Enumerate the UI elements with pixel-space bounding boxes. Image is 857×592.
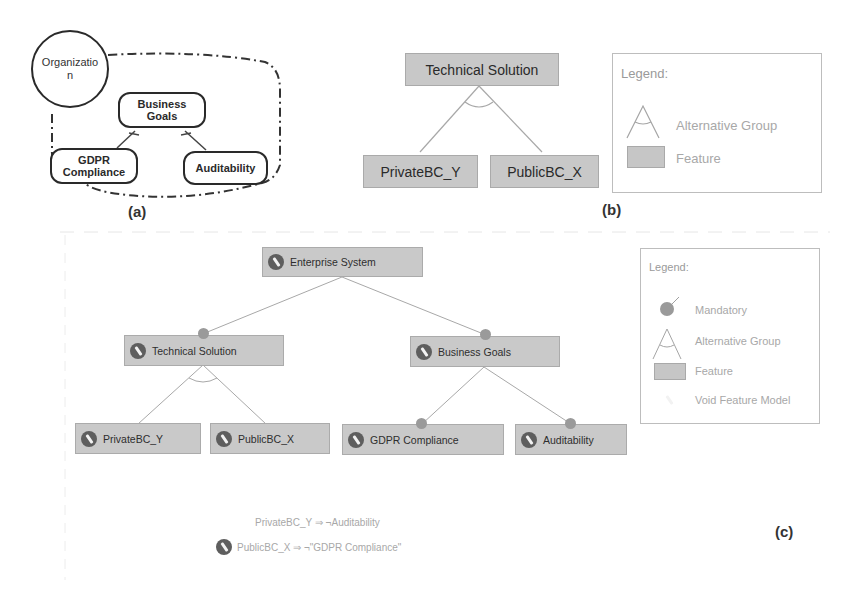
feature-label: Technical Solution bbox=[152, 345, 237, 357]
feature-business-goals: Business Goals bbox=[410, 336, 560, 367]
feature-enterprise-system: Enterprise System bbox=[262, 247, 423, 277]
mandatory-icon bbox=[565, 418, 576, 429]
mandatory-icon bbox=[480, 329, 491, 340]
constraint-text: PublicBC_X ⇒ ¬"GDPR Compliance" bbox=[237, 542, 401, 553]
legend-label-void-feature-model: Void Feature Model bbox=[695, 394, 790, 406]
void-feature-model-icon bbox=[216, 431, 232, 447]
legend-label-alternative-group: Alternative Group bbox=[695, 335, 781, 347]
constraint-publicbc-x: PublicBC_X ⇒ ¬"GDPR Compliance" bbox=[216, 539, 401, 555]
void-feature-model-icon bbox=[268, 254, 284, 270]
feature-label: PrivateBC_Y bbox=[103, 433, 163, 445]
feature-label: Auditability bbox=[543, 434, 594, 446]
panel-c-label: (c) bbox=[775, 523, 793, 540]
mandatory-icon bbox=[198, 328, 209, 339]
feature-privatebc-y: PrivateBC_Y bbox=[75, 423, 201, 454]
feature-label: GDPR Compliance bbox=[370, 434, 459, 446]
alternative-group-arc bbox=[189, 378, 217, 382]
legend-label-mandatory: Mandatory bbox=[695, 304, 747, 316]
constraint-text: PrivateBC_Y ⇒ ¬Auditability bbox=[255, 517, 380, 528]
constraint-privatebc-y: PrivateBC_Y ⇒ ¬Auditability bbox=[255, 517, 380, 528]
feature-technical-solution: Technical Solution bbox=[124, 335, 284, 366]
feature-swatch bbox=[654, 363, 686, 380]
feature-label: Business Goals bbox=[438, 346, 511, 358]
legend-label-feature: Feature bbox=[695, 365, 733, 377]
void-feature-model-icon bbox=[416, 344, 432, 360]
feature-publicbc-x: PublicBC_X bbox=[210, 423, 330, 454]
void-feature-model-icon bbox=[216, 539, 232, 555]
alternative-group-icon bbox=[651, 327, 685, 361]
void-feature-model-icon bbox=[521, 432, 537, 448]
feature-label: Enterprise System bbox=[290, 256, 376, 268]
mandatory-icon bbox=[416, 418, 427, 429]
mandatory-icon bbox=[657, 295, 681, 319]
legend-c: Legend: Mandatory Alternative Group Feat… bbox=[640, 248, 820, 424]
void-feature-model-icon bbox=[130, 343, 146, 359]
void-feature-model-icon bbox=[81, 431, 97, 447]
void-feature-model-icon bbox=[348, 432, 364, 448]
feature-label: PublicBC_X bbox=[238, 433, 294, 445]
legend-title: Legend: bbox=[649, 261, 689, 273]
